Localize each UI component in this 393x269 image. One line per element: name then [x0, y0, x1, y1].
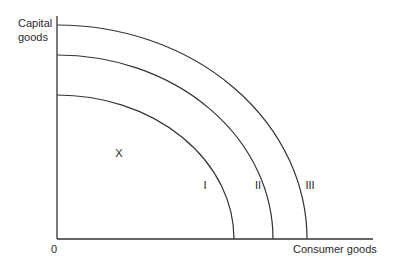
origin-label: 0	[51, 242, 57, 256]
y-axis-label-line1: Capital	[18, 16, 52, 30]
curve-II	[57, 55, 273, 239]
ppf-chart	[0, 0, 393, 269]
curve-III-label: III	[305, 179, 314, 191]
y-axis-label: Capital goods	[18, 16, 52, 44]
curve-I-label: I	[203, 179, 206, 191]
curve-II-label: II	[255, 179, 261, 191]
y-axis-label-line2: goods	[18, 30, 52, 44]
curve-I	[57, 95, 234, 239]
point-x-label: X	[115, 147, 122, 159]
x-axis-label: Consumer goods	[293, 242, 377, 256]
